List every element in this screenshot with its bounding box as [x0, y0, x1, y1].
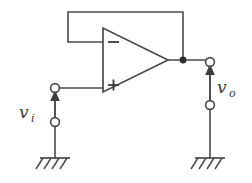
output-junction-dot	[180, 57, 187, 64]
input-voltage-symbol: v	[19, 102, 29, 122]
output-voltage-arrow	[205, 64, 215, 100]
ground-output-side	[191, 158, 225, 169]
input-voltage-arrow	[50, 90, 60, 117]
input-terminal-top[interactable]	[51, 84, 60, 93]
output-voltage-label: v o	[217, 77, 236, 100]
input-voltage-subscript: i	[31, 112, 35, 125]
input-source-port	[50, 84, 60, 158]
circuit-diagram: v i v o	[0, 0, 252, 183]
circuit-canvas: v i v o	[0, 0, 252, 183]
ground-input-side	[36, 158, 70, 169]
output-terminal-bottom[interactable]	[206, 101, 215, 110]
output-voltage-symbol: v	[217, 77, 227, 97]
output-port	[205, 58, 215, 158]
operational-amplifier	[103, 28, 168, 92]
input-terminal-bottom[interactable]	[51, 118, 60, 127]
output-voltage-subscript: o	[229, 87, 236, 100]
input-voltage-label: v i	[19, 102, 35, 125]
output-wire	[168, 57, 210, 64]
output-terminal-top[interactable]	[206, 58, 215, 67]
